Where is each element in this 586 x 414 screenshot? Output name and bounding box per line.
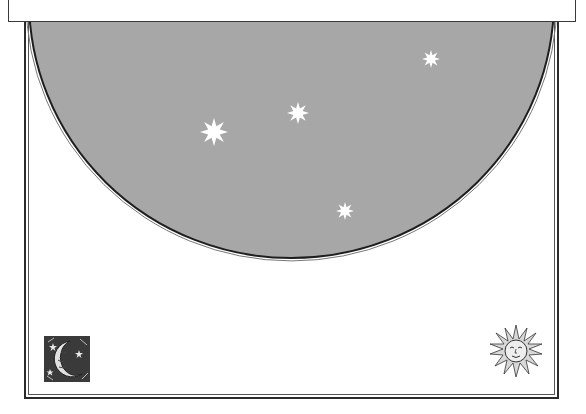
header-panel — [8, 0, 576, 22]
star-icon — [200, 118, 228, 146]
star-icon — [287, 102, 309, 124]
sun-icon — [489, 324, 543, 378]
moon-icon — [44, 336, 90, 382]
star-icon — [422, 50, 440, 68]
star-icon — [336, 202, 354, 220]
